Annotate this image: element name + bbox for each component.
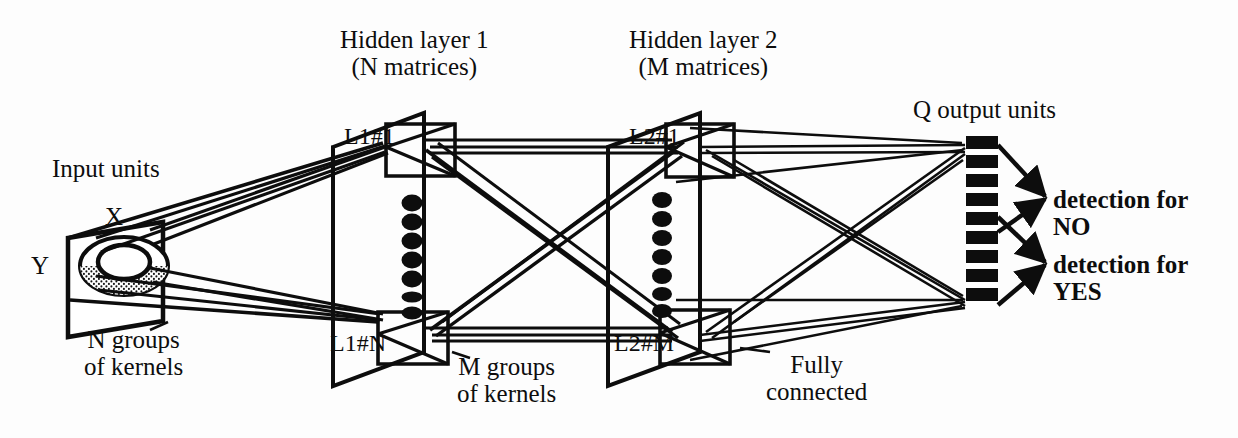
matrix-l1-last-label: L1#N [330,331,386,357]
hidden1-ellipsis-dots [402,195,423,320]
network-architecture-figure: Hidden layer 1 (N matrices) Hidden layer… [0,0,1238,438]
fully-connected-label: Fully connected [766,351,867,405]
hidden-layer-1-label: Hidden layer 1 (N matrices) [340,26,489,80]
matrix-l2-first-label: L2#1 [629,124,680,150]
matrix-l1-first-label: L1#1 [344,124,395,150]
detection-arrows [998,145,1045,305]
m-groups-of-kernels-label: M groups of kernels [457,353,556,407]
matrix-l2-last-label: L2#M [614,331,674,357]
connections-hidden1-to-hidden2 [424,140,684,341]
arrow-to-detection-yes-lower [998,265,1045,305]
connections-hidden2-to-output [676,128,965,360]
axis-y-label: Y [31,252,49,279]
input-units-label: Input units [52,155,160,182]
hidden-layer-2-label: Hidden layer 2 (M matrices) [629,26,778,80]
arrow-to-detection-no-lower [998,199,1045,232]
n-groups-of-kernels-label: N groups of kernels [84,326,183,380]
output-units-bar [966,136,998,310]
output-units-label: Q output units [913,96,1056,123]
axis-x-label: X [105,203,123,230]
detection-no-label: detection for NO [1053,186,1188,240]
arrow-to-detection-yes-upper [998,217,1045,262]
detection-yes-label: detection for YES [1053,251,1188,305]
hidden2-ellipsis-dots [652,192,672,318]
arrow-to-detection-no-upper [998,145,1045,196]
